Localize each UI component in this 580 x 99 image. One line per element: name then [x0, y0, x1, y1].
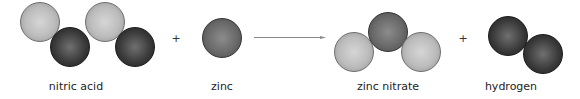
light-atom-icon: [334, 32, 374, 72]
nitric-acid-label: nitric acid: [49, 80, 103, 93]
zinc-atom-icon: [202, 18, 242, 58]
zinc-label: zinc: [211, 80, 233, 93]
dark-atom-icon: [50, 27, 90, 67]
reaction-diagram: nitric acid + zinc zinc nitrate + hydrog…: [0, 0, 580, 99]
plus-sign: +: [458, 32, 467, 45]
dark-atom-icon: [523, 34, 563, 74]
dark-atom-icon: [115, 27, 155, 67]
plus-sign: +: [171, 32, 180, 45]
zinc-nitrate-label: zinc nitrate: [357, 80, 419, 93]
dark-atom-icon: [488, 16, 528, 56]
light-atom-icon: [401, 32, 441, 72]
hydrogen-label: hydrogen: [485, 80, 537, 93]
right-arrow-icon: [254, 36, 326, 39]
